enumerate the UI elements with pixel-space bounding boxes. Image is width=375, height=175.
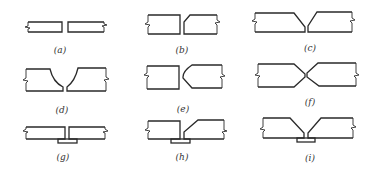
panel-label-h: (h): [176, 152, 189, 162]
panel-label-a: (a): [54, 45, 67, 55]
panel-h: (h): [145, 120, 227, 162]
panel-label-c: (c): [304, 43, 317, 53]
panel-f: (f): [255, 63, 359, 107]
panel-d: (d): [23, 68, 109, 115]
panel-label-f: (f): [305, 97, 316, 107]
panel-a: (a): [25, 22, 107, 55]
panel-c: (c): [252, 12, 355, 53]
panel-label-d: (d): [56, 105, 69, 115]
panel-label-g: (g): [57, 152, 70, 162]
panel-e: (e): [144, 65, 225, 114]
panel-b: (b): [145, 15, 220, 55]
panel-i: (i): [260, 118, 356, 163]
panel-g: (g): [23, 127, 108, 162]
panel-label-i: (i): [305, 153, 315, 163]
panel-label-e: (e): [177, 104, 190, 114]
weld-joint-figure: (a) (b) (c) (d) (e) (f): [0, 0, 375, 175]
panel-label-b: (b): [176, 45, 189, 55]
